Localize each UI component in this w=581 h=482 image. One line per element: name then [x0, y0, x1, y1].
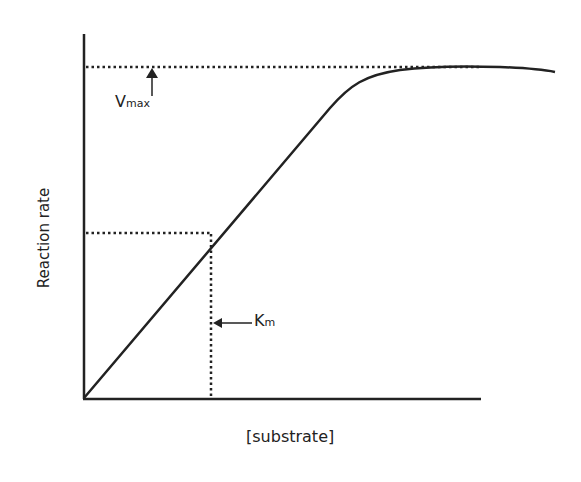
y-axis-label: Reaction rate — [35, 188, 53, 288]
saturation-diagram — [0, 0, 581, 482]
km-arrow — [213, 318, 252, 328]
vmax-label-main: V — [115, 92, 126, 111]
km-label: Km — [254, 311, 275, 330]
vmax-label-sub: max — [126, 97, 150, 110]
rate-curve — [84, 66, 555, 398]
x-axis-label: [substrate] — [246, 427, 334, 446]
km-label-main: K — [254, 311, 265, 330]
km-label-sub: m — [265, 316, 276, 329]
vmax-label: Vmax — [115, 92, 150, 111]
